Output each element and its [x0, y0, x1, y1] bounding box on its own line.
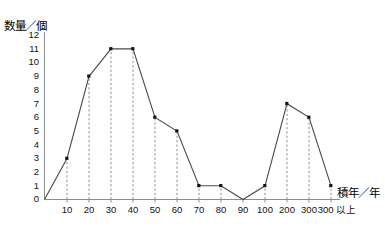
- y-tick-label: 4: [34, 139, 39, 150]
- data-point-marker: [175, 129, 178, 132]
- x-tick-label: 20: [84, 204, 95, 215]
- data-point-marker: [153, 116, 156, 119]
- x-tick-label: 10: [62, 204, 73, 215]
- data-point-marker: [131, 47, 134, 50]
- plot-area: 12 11 10 9 8 7 6 5 4 3 2 1 0: [0, 0, 385, 236]
- y-tick-label: 6: [34, 111, 39, 122]
- data-point-marker: [65, 157, 68, 160]
- x-tick-label: 40: [128, 204, 139, 215]
- y-tick-label: 12: [28, 29, 39, 40]
- x-tick-label: 50: [150, 204, 161, 215]
- x-tick-label: 80: [216, 204, 227, 215]
- data-series-line: [45, 49, 332, 200]
- y-tick-label: 9: [34, 70, 39, 81]
- data-point-marker: [219, 184, 222, 187]
- y-tick-label: 11: [29, 43, 39, 54]
- x-tick-label: 200: [279, 204, 295, 215]
- x-tick-label: 70: [194, 204, 205, 215]
- data-point-marker: [307, 116, 310, 119]
- line-chart: 数量／個 積年／年 12 11 10 9 8 7 6 5 4 3 2 1 0: [0, 0, 385, 236]
- data-point-marker: [197, 184, 200, 187]
- y-tick-label: 10: [28, 56, 39, 67]
- x-tick-label: 100: [257, 204, 273, 215]
- x-axis-tick-labels: 10 20 30 40 50 60 70 80 90 100 200 300 3…: [62, 204, 357, 215]
- data-point-marker: [285, 102, 288, 105]
- y-tick-label: 5: [34, 125, 39, 136]
- data-point-markers: [65, 47, 332, 187]
- y-tick-label: 0: [34, 193, 39, 204]
- x-tick-label: 90: [238, 204, 249, 215]
- y-tick-label: 2: [34, 166, 39, 177]
- data-point-marker: [109, 47, 112, 50]
- x-tick-label: 30: [106, 204, 117, 215]
- y-tick-label: 1: [34, 180, 39, 191]
- x-tick-label: 300: [301, 204, 317, 215]
- data-point-marker: [263, 184, 266, 187]
- y-tick-label: 7: [34, 98, 39, 109]
- y-tick-label: 8: [34, 84, 39, 95]
- data-point-marker: [87, 75, 90, 78]
- drop-lines: [67, 49, 331, 200]
- y-axis-ticks: 12 11 10 9 8 7 6 5 4 3 2 1 0: [28, 29, 39, 204]
- data-point-marker: [329, 184, 332, 187]
- y-tick-label: 3: [34, 152, 39, 163]
- x-tick-label: 60: [172, 204, 183, 215]
- x-tick-label-last: 300 以上: [318, 204, 357, 215]
